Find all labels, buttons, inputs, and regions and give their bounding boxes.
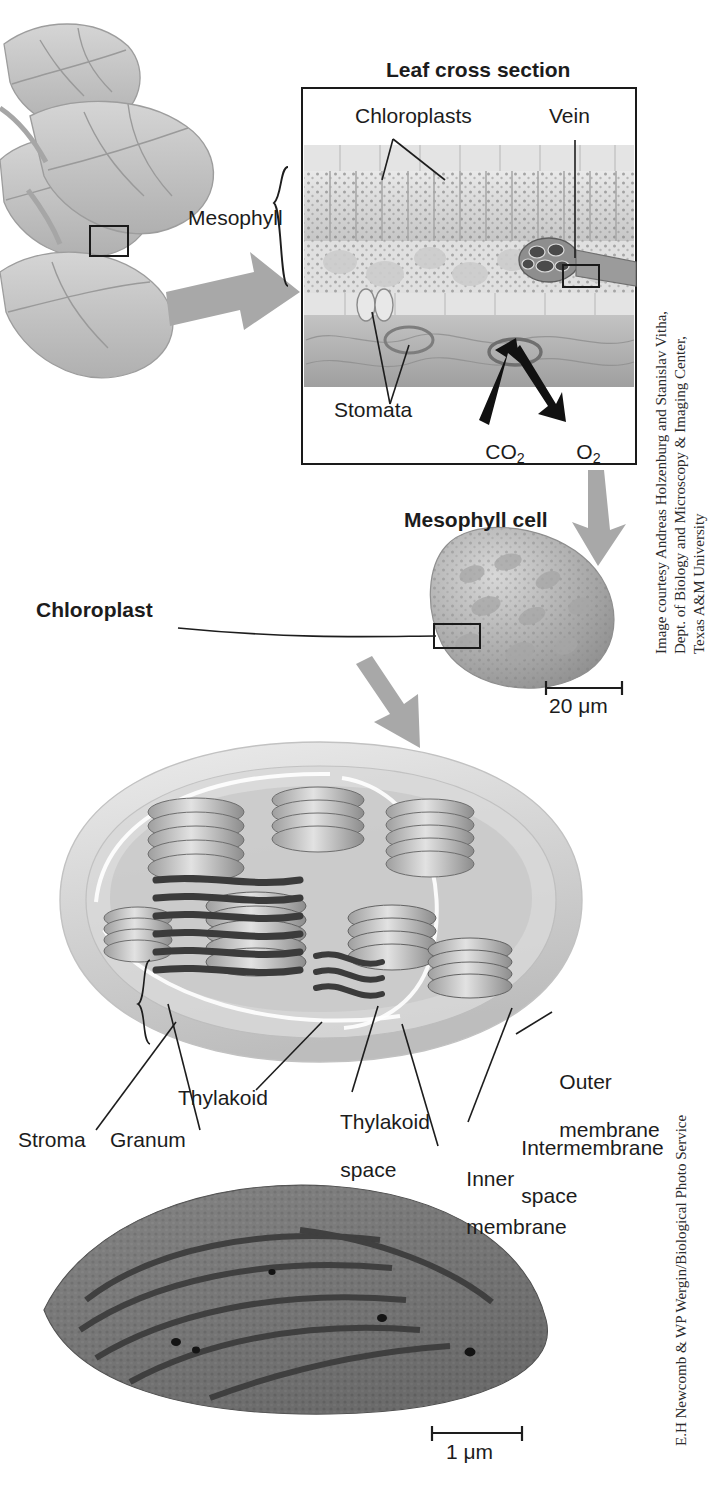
o2-text: O: [576, 440, 592, 463]
leaf-branch-illustration: [0, 24, 213, 378]
label-chloroplasts: Chloroplasts: [355, 104, 472, 128]
chloroplast-label-leader: [178, 628, 436, 637]
zoom-arrow-leaf-to-section: [166, 252, 300, 330]
co2-subscript: 2: [517, 450, 525, 466]
credit-bottom: E.H Newcomb & WP Wergin/Biological Photo…: [672, 1115, 691, 1446]
leaf-cross-section-panel: [274, 88, 636, 464]
chloroplast-title: Chloroplast: [36, 598, 153, 622]
label-stroma: Stroma: [18, 1128, 86, 1152]
mesophyll-cell-title: Mesophyll cell: [404, 508, 548, 532]
mesophyll-cell-micrograph: [430, 527, 614, 688]
intermembrane-space-line2: space: [521, 1184, 577, 1207]
label-thylakoid-space: Thylakoid space: [317, 1086, 430, 1206]
label-granum: Granum: [110, 1128, 186, 1152]
scale-label-1um: 1 μm: [446, 1440, 493, 1464]
label-mesophyll: Mesophyll: [188, 206, 283, 230]
leaf-cross-section-title: Leaf cross section: [386, 58, 570, 82]
label-co2: CO2: [462, 416, 525, 494]
credit-top: Image courtesy Andreas Holzenburg and St…: [652, 311, 709, 654]
scale-bar-1um: [432, 1426, 522, 1441]
label-vein: Vein: [549, 104, 590, 128]
label-stomata: Stomata: [334, 398, 412, 422]
thylakoid-space-line1: Thylakoid: [340, 1110, 430, 1133]
co2-text: CO: [485, 440, 517, 463]
label-o2: O2: [553, 416, 601, 494]
outer-membrane-line2: membrane: [559, 1118, 659, 1141]
label-outer-membrane: Outer membrane: [536, 1046, 660, 1166]
scale-label-20um: 20 μm: [549, 694, 608, 718]
outer-membrane-line1: Outer: [559, 1070, 612, 1093]
label-thylakoid: Thylakoid: [178, 1086, 268, 1110]
zoom-arrow-cell-to-chloroplast: [356, 656, 420, 748]
o2-subscript: 2: [593, 450, 601, 466]
thylakoid-space-line2: space: [340, 1158, 396, 1181]
